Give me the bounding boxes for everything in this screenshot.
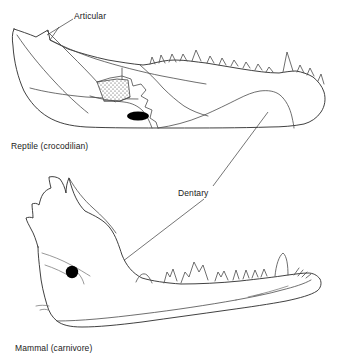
anatomical-figure: Articular Reptile (crocodilian) Dentary … bbox=[0, 0, 338, 364]
figure-drawing bbox=[0, 0, 338, 364]
mammal-jaw-group bbox=[26, 177, 321, 327]
caption-reptile: Reptile (crocodilian) bbox=[11, 141, 88, 151]
mammal-dentary-outline bbox=[26, 177, 321, 327]
mammal-angular-detail-2 bbox=[40, 309, 48, 310]
reptile-mandibular-fenestra bbox=[127, 111, 149, 120]
mammal-angular-detail bbox=[36, 305, 49, 306]
reptile-jaw-group bbox=[12, 19, 325, 128]
caption-mammal: Mammal (carnivore) bbox=[15, 343, 92, 353]
label-dentary: Dentary bbox=[178, 188, 208, 198]
reptile-jaw-outline bbox=[12, 29, 325, 128]
mammal-mental-foramen bbox=[66, 266, 78, 278]
label-articular: Articular bbox=[74, 11, 106, 21]
articular-leader-line bbox=[47, 19, 73, 35]
